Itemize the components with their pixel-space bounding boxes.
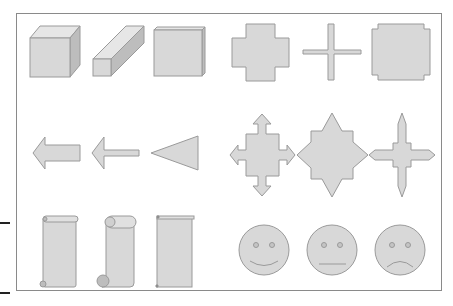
vertical-scroll-flat-shape <box>156 216 194 287</box>
thin-cross-shape <box>303 24 361 80</box>
left-triangle-shape <box>151 136 198 170</box>
smiley-neutral-shape <box>307 225 357 275</box>
smiley-sad-shape <box>375 225 425 275</box>
cube-shape <box>30 26 80 77</box>
smiley-happy-shape <box>239 225 289 275</box>
left-arrow-wide-shape <box>33 137 80 169</box>
shapes-canvas <box>0 0 453 306</box>
vertical-scroll-shape <box>40 216 78 287</box>
bevel-shape <box>154 27 205 76</box>
eight-point-star-shape <box>297 113 368 197</box>
bar-3d-shape <box>93 26 144 76</box>
plus-shape <box>232 24 289 81</box>
quad-arrow-shape <box>230 114 295 196</box>
four-point-star-shape <box>369 113 435 197</box>
plaque-shape <box>372 24 430 80</box>
vertical-scroll-curled-shape <box>97 216 136 287</box>
left-arrow-thin-shape <box>92 137 139 169</box>
